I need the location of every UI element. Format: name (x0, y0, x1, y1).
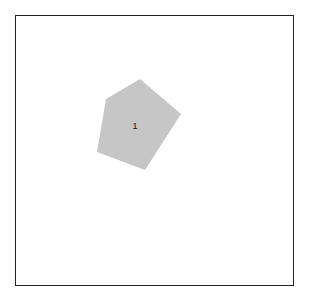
pentagon-shape (97, 79, 181, 170)
diagram-canvas (0, 0, 311, 303)
shape-label: 1 (132, 121, 137, 131)
